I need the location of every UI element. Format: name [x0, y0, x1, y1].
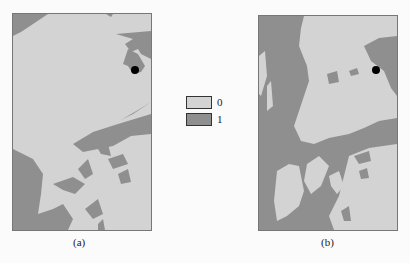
legend: 0 1 [186, 95, 223, 129]
swatch-0 [186, 96, 212, 109]
swatch-1 [186, 113, 212, 126]
legend-label-0: 0 [217, 96, 223, 108]
map-panel-b [258, 15, 398, 231]
caption-b: (b) [321, 236, 334, 248]
binary-map-a [13, 14, 151, 230]
map-panel-a [12, 13, 152, 231]
legend-item-0: 0 [186, 95, 223, 109]
binary-map-b [259, 16, 397, 230]
caption-a: (a) [73, 236, 85, 248]
legend-label-1: 1 [217, 113, 223, 125]
legend-item-1: 1 [186, 112, 223, 126]
